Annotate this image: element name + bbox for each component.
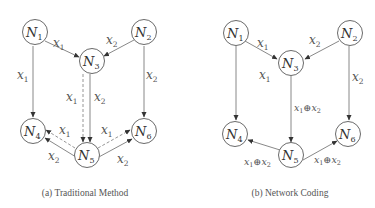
- edge-label-a-n1-n3: x1: [53, 36, 65, 52]
- edge-label-b-n1-n3: x1: [257, 36, 269, 52]
- edge-label-a-n5-n4-x1: x1: [59, 123, 71, 139]
- node-a-n6: N6: [132, 119, 157, 144]
- edge-label-b-n3-n5: x1⊕x2: [294, 102, 321, 115]
- edge-label-b-n1-n4: x1: [259, 68, 271, 84]
- edge-label-b-n5-n6: x1⊕x2: [314, 154, 341, 167]
- edge-label-b-n2-n3: x2: [309, 33, 321, 49]
- node-b-n1: N1: [224, 21, 249, 46]
- edge-label-a-n3-n5-x2: x2: [94, 90, 106, 106]
- node-a-n3: N3: [80, 49, 105, 74]
- node-b-n4: N4: [223, 122, 248, 147]
- network-coding-figure: x1 x2 x1 x2 x1 x2 x1 x2 x1 x2 N1 N2 N3 N…: [0, 0, 375, 208]
- node-a-n5: N5: [75, 143, 100, 168]
- node-a-n2: N2: [132, 20, 157, 45]
- edge-label-a-n5-n4-x2: x2: [48, 149, 60, 165]
- edge-label-a-n2-n6: x2: [146, 68, 158, 84]
- caption-b: (b) Network Coding: [251, 188, 328, 199]
- edge-label-a-n5-n6-x1: x1: [101, 123, 113, 139]
- edge-b-n5-n4: [248, 140, 280, 150]
- node-b-n3: N3: [279, 51, 304, 76]
- edge-a-n5-n6-x2: [97, 139, 132, 158]
- edge-label-a-n2-n3: x2: [106, 33, 118, 49]
- node-b-n5: N5: [279, 143, 304, 168]
- node-a-n4: N4: [21, 119, 46, 144]
- edge-label-a-n5-n6-x2: x2: [117, 152, 129, 168]
- node-b-n6: N6: [336, 122, 361, 147]
- panel-b-network-coding: x1 x2 x1 x2 x1⊕x2 x1⊕x2 x1⊕x2 N1 N2 N3 N…: [223, 21, 364, 200]
- caption-a: (a) Traditional Method: [42, 188, 129, 199]
- edge-label-b-n2-n6: x2: [352, 70, 364, 86]
- edge-label-b-n5-n4: x1⊕x2: [244, 156, 271, 169]
- node-b-n2: N2: [338, 21, 363, 46]
- panel-a-traditional-method: x1 x2 x1 x2 x1 x2 x1 x2 x1 x2 N1 N2 N3 N…: [17, 20, 158, 200]
- node-a-n1: N1: [23, 20, 48, 45]
- edge-label-a-n1-n4: x1: [17, 68, 29, 84]
- edge-label-a-n3-n5-x1: x1: [66, 90, 78, 106]
